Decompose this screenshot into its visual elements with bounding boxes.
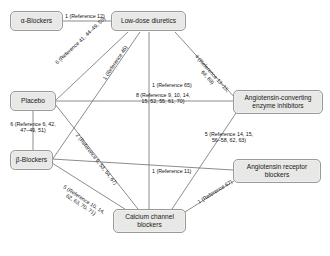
node-beta-blockers[interactable]: β-Blockers: [10, 150, 53, 170]
node-label: α-Blockers: [21, 17, 52, 25]
node-label: Angiotensin receptor blockers: [236, 163, 318, 179]
node-label: Calcium channel blockers: [116, 213, 183, 229]
edge-label-acei-ccb: 5 (Reference 14, 15, 56–58, 62, 63): [196, 131, 262, 144]
node-arb[interactable]: Angiotensin receptor blockers: [233, 159, 321, 183]
edge-label-beta-arb: 1 (Reference 11): [152, 168, 191, 174]
diagram-canvas: α-Blockers Low-dose diuretics Placebo An…: [0, 0, 330, 256]
node-placebo[interactable]: Placebo: [10, 91, 56, 111]
edge-label-placebo-beta: 6 (Reference 6, 42, 47–49, 51): [2, 121, 64, 134]
node-label: Low-dose diuretics: [121, 17, 176, 25]
node-ace-inhibitors[interactable]: Angiotensin-converting enzyme inhibitors: [233, 90, 323, 114]
node-alpha-blockers[interactable]: α-Blockers: [10, 11, 63, 31]
node-calcium-channel-blockers[interactable]: Calcium channel blockers: [113, 209, 186, 233]
edge-beta-arb: [52, 159, 233, 170]
node-label: Angiotensin-converting enzyme inhibitors: [236, 94, 320, 110]
edge-label-placebo-acei: 8 (Reference 9, 10, 14, 15, 52, 55, 61, …: [126, 92, 200, 105]
edge-placebo-lowdose: [55, 32, 128, 101]
node-low-dose-diuretics[interactable]: Low-dose diuretics: [111, 11, 186, 31]
node-label: β-Blockers: [16, 156, 47, 164]
edge-label-ccb-lowdose: 1 (Reference 65): [152, 82, 192, 88]
node-label: Placebo: [21, 97, 45, 105]
